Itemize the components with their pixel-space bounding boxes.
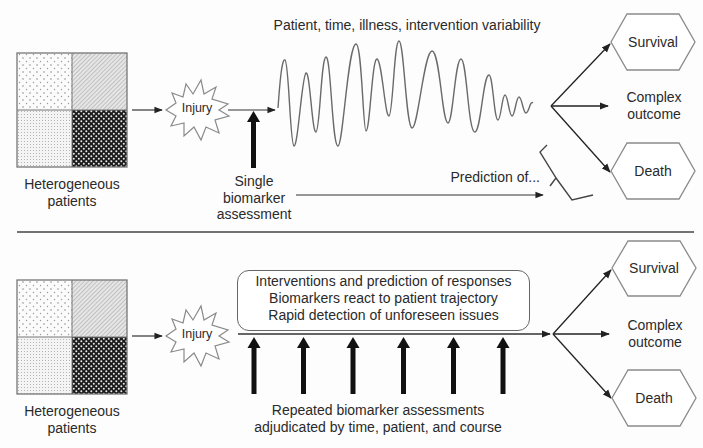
variability-waveform xyxy=(278,41,533,146)
death-label: Death xyxy=(611,163,695,180)
bottom-complex-outcome-label: Complex outcome xyxy=(613,317,697,350)
bottom-arrow-to-death xyxy=(553,334,611,398)
bottom-injury-label: Injury xyxy=(176,327,218,342)
bottom-survival-label: Survival xyxy=(612,260,696,277)
intervention-info-box: Interventions and prediction of response… xyxy=(237,270,530,331)
prediction-label: Prediction of... xyxy=(440,169,540,186)
variability-label: Patient, time, illness, intervention var… xyxy=(262,17,552,34)
info-line-interventions: Interventions and prediction of response… xyxy=(238,273,529,290)
top-injury-label: Injury xyxy=(176,101,218,116)
repeated-biomarker-arrows xyxy=(248,337,510,394)
biomarker-assessment-diagram: Heterogeneous patients Injury Patient, t… xyxy=(0,0,703,448)
complex-outcome-label: Complex outcome xyxy=(612,89,696,122)
prediction-brace xyxy=(540,145,593,200)
info-line-biomarkers: Biomarkers react to patient trajectory xyxy=(238,290,529,307)
bottom-patients-label: Heterogeneous patients xyxy=(10,403,134,436)
survival-label: Survival xyxy=(611,34,695,51)
diagram-graphics xyxy=(0,0,703,448)
single-biomarker-arrow xyxy=(247,111,260,168)
top-patients-label: Heterogeneous patients xyxy=(10,176,134,209)
bottom-arrow-to-survival xyxy=(553,270,611,334)
bottom-patients-grid xyxy=(17,280,127,394)
arrow-to-survival xyxy=(551,44,610,106)
repeated-assessments-label: Repeated biomarker assessments adjudicat… xyxy=(228,402,528,435)
bottom-death-label: Death xyxy=(612,390,696,407)
single-biomarker-label: Single biomarker assessment xyxy=(214,173,294,223)
top-patients-grid xyxy=(17,53,127,167)
arrow-to-death xyxy=(551,106,610,172)
info-line-detection: Rapid detection of unforeseen issues xyxy=(238,307,529,324)
